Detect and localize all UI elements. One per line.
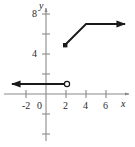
right-branch-line [65, 24, 125, 45]
x-tick-label-6: 6 [103, 101, 108, 111]
graph-figure: -2 0 2 4 6 8 4 x y [0, 0, 135, 147]
x-tick-label-neg2: -2 [22, 101, 30, 111]
y-axis [42, 8, 50, 141]
x-axis-label: x [121, 99, 125, 109]
coordinate-plane [0, 0, 135, 147]
open-endpoint-marker [64, 81, 69, 86]
left-branch-ray [12, 81, 70, 86]
x-tick-label-4: 4 [83, 101, 88, 111]
x-tick-label-origin: 0 [37, 101, 42, 111]
x-axis [4, 90, 129, 98]
closed-endpoint-marker [63, 43, 67, 47]
x-tick-label-2: 2 [63, 101, 68, 111]
right-branch-polyline [63, 24, 125, 47]
y-tick-label-4: 4 [32, 49, 37, 59]
y-tick-label-8: 8 [32, 9, 37, 19]
y-axis-label: y [39, 1, 43, 11]
